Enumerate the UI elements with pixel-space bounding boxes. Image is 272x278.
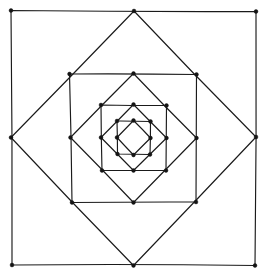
vertex-marker (195, 136, 199, 140)
vertex-marker (132, 169, 136, 173)
vertex-marker (132, 153, 136, 157)
vertex-marker (165, 136, 169, 140)
vertex-marker (165, 104, 169, 108)
vertex-layer (9, 9, 258, 268)
vertex-marker (115, 119, 119, 123)
vertex-marker (132, 72, 136, 76)
vertex-marker (149, 120, 153, 124)
vertex-marker (132, 264, 136, 268)
square-8-inner-diamond (117, 121, 151, 156)
nested-squares-figure: Nested rotated squares (0, 0, 272, 278)
vertex-marker (69, 136, 73, 140)
figure-canvas: Nested rotated squares (0, 0, 272, 278)
vertex-marker (164, 169, 168, 173)
vertex-marker (254, 135, 258, 139)
vertex-marker (253, 264, 257, 268)
vertex-marker (9, 136, 13, 140)
square-7-axis-aligned (117, 121, 151, 155)
vertex-marker (9, 9, 13, 13)
vertex-marker (149, 136, 153, 140)
vertex-marker (115, 136, 119, 140)
square-2-diamond (11, 11, 256, 266)
square-1-outer-axis-aligned (11, 11, 256, 266)
vertex-marker (99, 103, 103, 107)
vertex-marker (194, 200, 198, 204)
vertex-marker (100, 169, 104, 173)
vertex-marker (132, 119, 136, 123)
vertex-marker (70, 201, 74, 205)
vertex-marker (254, 10, 258, 14)
vertex-marker (10, 263, 14, 267)
vertex-marker (148, 153, 152, 157)
vertex-marker (195, 73, 199, 77)
vertex-marker (132, 201, 136, 205)
square-6-diamond (101, 105, 167, 171)
vertex-marker (116, 152, 120, 156)
square-3-axis-aligned (70, 74, 197, 203)
vertex-marker (68, 72, 72, 76)
vertex-marker (132, 9, 136, 13)
vertex-marker (132, 103, 136, 107)
vertex-marker (99, 136, 103, 140)
square-4-diamond (71, 74, 197, 203)
square-5-axis-aligned (101, 105, 167, 171)
polygon-layer (11, 11, 256, 266)
